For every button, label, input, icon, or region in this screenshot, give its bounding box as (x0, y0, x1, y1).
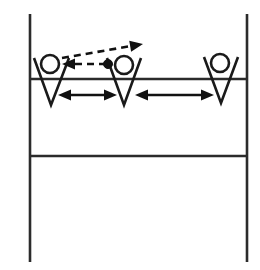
ball-icon (104, 60, 113, 69)
player-right-head (211, 54, 229, 72)
spacing-arrow-left-middle-head-right (104, 90, 117, 101)
court-canvas (0, 0, 260, 270)
ball-path-upper-right-arrowhead (129, 41, 143, 52)
player-left-head (41, 55, 59, 73)
player-left-body (34, 58, 69, 105)
spacing-arrow-middle-right-head-left (135, 90, 148, 101)
spacing-arrow-left-middle (58, 90, 117, 101)
spacing-arrow-middle-right (135, 90, 214, 101)
ball-path-upper-right (62, 41, 143, 58)
player-middle-head (115, 56, 133, 74)
volleyball-court-diagram (0, 0, 260, 270)
spacing-arrow-middle-right-head-right (201, 90, 214, 101)
court-lines (30, 14, 247, 262)
spacing-arrow-left-middle-head-left (58, 90, 71, 101)
